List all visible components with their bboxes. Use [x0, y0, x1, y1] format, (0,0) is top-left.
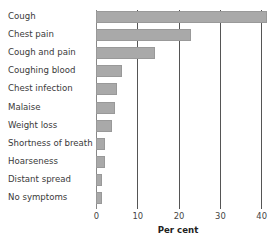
category-label: Shortness of breath: [8, 138, 93, 148]
category-label: Coughing blood: [8, 65, 75, 75]
x-tick-label: 40: [256, 211, 267, 221]
category-label: Chest infection: [8, 83, 73, 93]
category-label: Malaise: [8, 102, 41, 112]
x-axis-label: Per cent: [158, 225, 199, 235]
bar: [96, 65, 122, 77]
bar: [96, 174, 102, 186]
category-label: Hoarseness: [8, 156, 58, 166]
bar: [96, 47, 155, 59]
category-label: Cough: [8, 11, 36, 21]
bar: [96, 102, 115, 114]
category-label: Distant spread: [8, 174, 71, 184]
category-label: No symptoms: [8, 192, 67, 202]
x-tick-label: 30: [215, 211, 226, 221]
bar: [96, 29, 191, 41]
x-tick-label: 0: [94, 211, 99, 221]
bar: [96, 156, 105, 168]
bar: [96, 120, 112, 132]
bar: [96, 192, 102, 204]
bar: [96, 138, 105, 150]
category-label: Chest pain: [8, 29, 54, 39]
bar: [96, 11, 267, 23]
gridline: [220, 10, 221, 209]
category-label: Cough and pain: [8, 47, 76, 57]
bar: [96, 83, 117, 95]
gridline: [261, 10, 262, 209]
x-tick-label: 20: [174, 211, 185, 221]
x-tick-label: 10: [132, 211, 143, 221]
category-label: Weight loss: [8, 120, 57, 130]
